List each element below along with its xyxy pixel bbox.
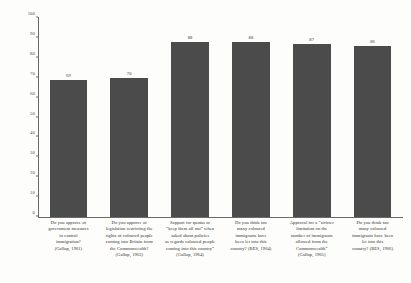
bar[interactable]: [354, 46, 392, 217]
x-axis-category-label: Approval for a “stricterlimitation on th…: [281, 220, 342, 258]
bar[interactable]: [110, 78, 148, 217]
bar-value-label: 88: [171, 35, 209, 40]
category-label-line: country? (BES, 1964): [221, 246, 282, 252]
y-axis-tick-label: 90: [30, 30, 35, 35]
bar-value-label: 87: [293, 37, 331, 42]
bar-value-label: 88: [232, 35, 270, 40]
y-axis-tick-label: 10: [30, 190, 35, 195]
y-axis-tick-label: 50: [30, 110, 35, 115]
bar[interactable]: [171, 42, 209, 217]
y-axis-tick-label: 20: [30, 170, 35, 175]
bar-series: 697088888786: [38, 18, 403, 217]
bar[interactable]: [50, 80, 88, 217]
bar[interactable]: [232, 42, 270, 217]
category-label-line: (Gallup, 1964): [160, 252, 221, 258]
category-label-line: “keep them all out” when: [160, 226, 221, 232]
bar-value-label: 70: [110, 71, 148, 76]
bar-slot: 88: [232, 18, 270, 217]
y-axis-tick-label: 0: [33, 210, 35, 215]
category-label-line: (Gallup, 1961): [38, 246, 99, 252]
x-axis-category-labels: Do you approve ofgovernment measuresto c…: [38, 220, 403, 282]
category-label-line: country? (BES, 1966): [342, 246, 403, 252]
plot-area: 0102030405060708090100 697088888786: [38, 18, 403, 217]
x-axis-category-label: Do you approve oflegislation restricting…: [99, 220, 160, 258]
y-axis-tick-label: 60: [30, 90, 35, 95]
bar-value-label: 86: [354, 39, 392, 44]
x-axis-category-label: Do you approve ofgovernment measuresto c…: [38, 220, 99, 252]
y-axis-tick-label: 100: [28, 11, 35, 16]
bar-chart-figure: 0102030405060708090100 697088888786 Do y…: [0, 0, 411, 283]
category-label-line: as regards coloured people: [160, 239, 221, 245]
y-axis-tick-label: 80: [30, 50, 35, 55]
category-label-line: coming into Britain from: [99, 239, 160, 245]
bar-slot: 88: [171, 18, 209, 217]
bar-value-label: 69: [50, 73, 88, 78]
bar-slot: 70: [110, 18, 148, 217]
category-label-line: legislation restricting the: [99, 226, 160, 232]
x-axis-category-label: Do you think toomany colouredimmigrants …: [342, 220, 403, 252]
x-axis-category-label: Do you think toomany colouredimmigrants …: [221, 220, 282, 252]
y-axis-tick-label: 40: [30, 130, 35, 135]
category-label-line: (Gallup, 1965): [281, 252, 342, 258]
category-label-line: (Gallup, 1963): [99, 252, 160, 258]
x-axis-line: [38, 217, 403, 218]
y-axis-tick-label: 70: [30, 70, 35, 75]
x-axis-category-label: Support for quotas or“keep them all out”…: [160, 220, 221, 258]
bar-slot: 69: [50, 18, 88, 217]
y-axis-tick-label: 30: [30, 150, 35, 155]
bar-slot: 86: [354, 18, 392, 217]
bar-slot: 87: [293, 18, 331, 217]
bar[interactable]: [293, 44, 331, 217]
